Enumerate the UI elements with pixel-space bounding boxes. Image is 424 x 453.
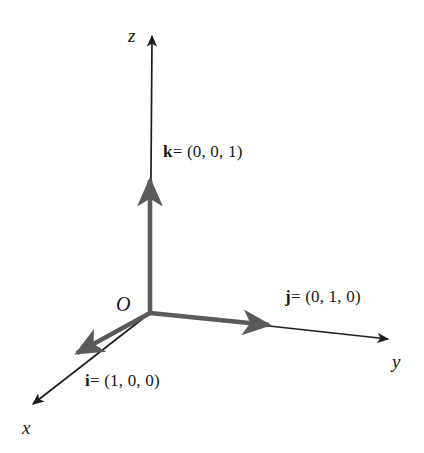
z-axis-label: z	[128, 26, 135, 45]
vector-i-equals: =	[90, 371, 100, 390]
vector-i-components: (1, 0, 0)	[104, 371, 160, 390]
vector-i-arrow	[77, 313, 150, 353]
axes-diagram	[0, 0, 424, 453]
vector-j-components: (0, 1, 0)	[305, 287, 361, 306]
vector-k-components: (0, 0, 1)	[187, 142, 243, 161]
x-axis-label: x	[22, 418, 30, 437]
vector-j-label: j= (0, 1, 0)	[285, 288, 361, 305]
vector-j-arrow	[150, 313, 269, 325]
unit-vectors	[77, 180, 269, 353]
origin-label: O	[116, 294, 130, 314]
vector-i-label: i= (1, 0, 0)	[85, 372, 160, 389]
vector-k-equals: =	[173, 142, 183, 161]
vector-k-symbol: k	[163, 142, 173, 161]
vector-basis-figure: z y x O k= (0, 0, 1) j= (0, 1, 0) i= (1,…	[0, 0, 424, 453]
vector-k-label: k= (0, 0, 1)	[163, 143, 243, 160]
y-axis-label: y	[392, 352, 400, 371]
x-axis-line	[33, 313, 150, 404]
vector-j-equals: =	[291, 287, 301, 306]
